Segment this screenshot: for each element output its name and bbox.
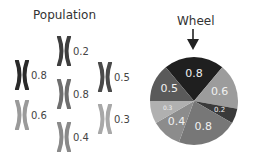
segment-label: 0.3 [163,104,173,111]
chromosome-icon [14,60,30,90]
segment-label: 0.8 [195,120,213,133]
chromosome-icon [56,122,72,152]
fitness-label: 0.8 [73,89,89,100]
segment-label: 0.5 [161,82,179,95]
chromosome-icon [97,104,113,134]
population-title: Population [33,8,96,22]
chromosome-icon [14,100,30,130]
fitness-label: 0.3 [114,114,130,125]
segment-label: 0.6 [211,85,229,98]
fitness-label: 0.4 [73,132,89,143]
chromosome-icon [56,36,72,66]
segment-label: 0.8 [185,67,203,80]
fitness-label: 0.2 [73,46,89,57]
fitness-label: 0.8 [31,70,47,81]
fitness-label: 0.5 [114,72,130,83]
segment-label: 0.4 [168,115,186,128]
chromosome-icon [56,79,72,109]
pointer-arrow-icon [185,29,201,51]
fitness-label: 0.6 [31,110,47,121]
roulette-wheel-pie: 0.80.60.20.80.40.30.5 [148,55,240,147]
wheel-title: Wheel [177,14,215,28]
segment-label: 0.2 [214,106,225,114]
chromosome-icon [97,62,113,92]
